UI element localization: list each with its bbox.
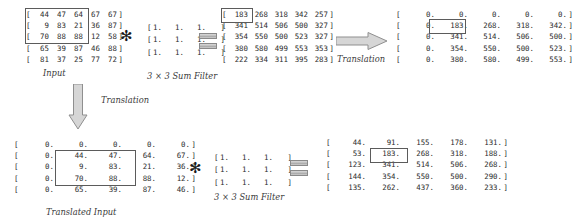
matrix-cell: 12.: [156, 173, 190, 184]
label-sum-filter-top: 3 × 3 Sum Filter: [147, 71, 217, 81]
bracket-close: ]: [502, 159, 508, 170]
matrix-row: [183268318342257]: [222, 9, 334, 20]
matrix-cell: 327: [308, 20, 328, 31]
matrix-translated-result-top: [0.0.0.0.0.][0.183.268.318.342.][0.341.5…: [396, 9, 573, 65]
matrix-cell: 580: [248, 43, 268, 54]
matrix-cell: 39: [49, 43, 66, 54]
matrix-cell: 183: [228, 9, 248, 20]
label-input: Input: [43, 68, 66, 78]
matrix-cell: 1.: [220, 152, 242, 164]
matrix-cell: 91.: [366, 137, 400, 148]
matrix-cell: 334: [248, 54, 268, 65]
matrix-cell: 514: [248, 20, 268, 31]
matrix-row: [123.341.514.506.268.]: [326, 159, 508, 170]
matrix-cell: 77: [83, 54, 100, 65]
matrix-cell: 523.: [534, 43, 567, 54]
matrix-cell: 188.: [468, 148, 502, 159]
matrix-row: [983213687]: [26, 20, 123, 31]
matrix-cell: 523: [288, 31, 308, 42]
matrix-cell: 553.: [534, 54, 567, 65]
matrix-cell: 67.: [156, 150, 190, 161]
matrix-cell: 380: [228, 43, 248, 54]
matrix-cell: 83.: [88, 161, 122, 172]
matrix-row: [8137257772]: [26, 54, 123, 65]
bracket-close: ]: [117, 54, 123, 65]
matrix-cell: 506: [268, 20, 288, 31]
matrix-cell: 0.: [402, 43, 435, 54]
matrix-cell: 506.: [501, 31, 534, 42]
matrix-cell: 354.: [366, 171, 400, 182]
matrix-cell: 1.: [264, 177, 286, 189]
matrix-row: [0.183.268.318.342.]: [396, 20, 573, 31]
matrix-cell: 514.: [400, 159, 434, 170]
matrix-cell: 0.: [468, 9, 501, 20]
matrix-row: [4447646767]: [26, 9, 123, 20]
matrix-row: [6539874688]: [26, 43, 123, 54]
matrix-cell: 144.: [332, 171, 366, 182]
matrix-cell: 580.: [468, 54, 501, 65]
matrix-cell: 341: [228, 20, 248, 31]
matrix-cell: 499: [268, 43, 288, 54]
matrix-cell: 1.: [242, 164, 264, 176]
matrix-cell: 64.: [122, 150, 156, 161]
matrix-row: [0.0.0.0.0.]: [14, 139, 196, 150]
matrix-row: [53.183.268.318.188.]: [326, 148, 508, 159]
equals-bar-upper: [199, 33, 217, 39]
matrix-cell: 500.: [434, 171, 468, 182]
matrix-cell: 21.: [122, 161, 156, 172]
matrix-cell: 70: [32, 31, 49, 42]
bracket-close: ]: [328, 54, 334, 65]
matrix-cell: 0.: [435, 9, 468, 20]
bracket-close: ]: [328, 20, 334, 31]
matrix-cell: 0.: [402, 31, 435, 42]
matrix-conv-result-bottom: [44.91.155.178.131.][53.183.268.318.188.…: [326, 137, 508, 193]
matrix-row: [1.1.1.]: [214, 164, 292, 176]
matrix-cell: 0.: [402, 9, 435, 20]
matrix-cell: 65.: [54, 184, 88, 195]
matrix-cell: 81: [32, 54, 49, 65]
matrix-cell: 360.: [434, 182, 468, 193]
equals-sign-bottom: [290, 160, 308, 177]
matrix-row: [0.0.0.0.0.]: [396, 9, 573, 20]
matrix-cell: 222: [228, 54, 248, 65]
matrix-cell: 268.: [468, 20, 501, 31]
matrix-cell: 0.: [20, 161, 54, 172]
bracket-close: ]: [567, 9, 573, 20]
matrix-cell: 233.: [468, 182, 502, 193]
matrix-cell: 500: [268, 31, 288, 42]
matrix-cell: 0.: [54, 139, 88, 150]
matrix-cell: 9.: [54, 161, 88, 172]
matrix-cell: 500.: [534, 31, 567, 42]
bracket-close: ]: [567, 31, 573, 42]
matrix-cell: 268.: [468, 159, 502, 170]
matrix-input: [4447646767][983213687][7088881258][6539…: [26, 9, 123, 65]
bracket-close: ]: [502, 137, 508, 148]
label-sum-filter-bottom: 3 × 3 Sum Filter: [214, 192, 284, 202]
matrix-sum-filter-bottom: [1.1.1.][1.1.1.][1.1.1.]: [214, 152, 292, 189]
bracket-close: ]: [328, 31, 334, 42]
matrix-cell: 88.: [88, 173, 122, 184]
matrix-cell: 39.: [88, 184, 122, 195]
matrix-cell: 341.: [366, 159, 400, 170]
matrix-cell: 1.: [153, 34, 175, 46]
matrix-cell: 37: [49, 54, 66, 65]
equals-bar-lower: [199, 43, 217, 49]
matrix-cell: 123.: [332, 159, 366, 170]
matrix-cell: 25: [66, 54, 83, 65]
matrix-cell: 0.: [88, 139, 122, 150]
matrix-cell: 36: [83, 20, 100, 31]
matrix-cell: 0.: [402, 20, 435, 31]
label-translation-right: Translation: [337, 54, 385, 64]
matrix-cell: 499.: [501, 54, 534, 65]
matrix-cell: 67: [83, 9, 100, 20]
matrix-cell: 44.: [332, 137, 366, 148]
matrix-cell: 46.: [156, 184, 190, 195]
bracket-close: ]: [117, 9, 123, 20]
matrix-cell: 88: [66, 31, 83, 42]
matrix-cell: 1.: [153, 47, 175, 59]
matrix-row: [0.354.550.500.523.]: [396, 43, 573, 54]
bracket-close: ]: [567, 43, 573, 54]
matrix-cell: 64: [66, 9, 83, 20]
matrix-cell: 65: [32, 43, 49, 54]
matrix-conv-result-top: [183268318342257][341514506500327][35455…: [222, 9, 334, 65]
